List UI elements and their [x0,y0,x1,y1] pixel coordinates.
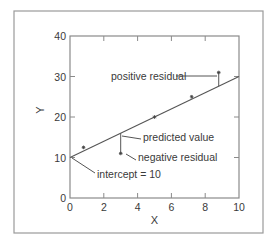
x-tick-label: 2 [101,201,107,213]
annotation-predicted-value: predicted value [143,131,214,143]
data-point-star-icon [217,71,221,75]
y-tick-label: 10 [54,152,66,164]
x-tick-label: 10 [233,201,245,213]
y-tick-label: 0 [60,192,66,204]
y-tick-label: 40 [54,30,66,42]
annotation-positive-residual: positive residual [111,70,186,82]
data-point-star-icon [153,115,157,119]
negative-residual-leader [126,154,136,160]
y-tick-label: 30 [54,71,66,83]
annotation-negative-residual: negative residual [138,151,217,163]
intercept-leader [72,158,95,173]
tick-labels: 0246810010203040 [54,30,245,213]
x-tick-label: 6 [168,201,174,213]
x-tick-label: 4 [135,201,141,213]
predicted-value-leader [122,136,141,139]
figure: 0246810010203040 X Y positive residual p… [0,0,271,247]
annotation-intercept: intercept = 10 [97,168,161,180]
x-tick-label: 8 [202,201,208,213]
data-point-star-icon [82,146,86,150]
y-tick-label: 20 [54,111,66,123]
data-point-star-icon [190,95,194,99]
x-axis-label: X [151,214,159,226]
outer-frame [14,11,263,233]
data-point-star-icon [119,152,123,156]
y-axis-label: Y [34,106,46,114]
regression-chart: 0246810010203040 X Y positive residual p… [0,0,271,247]
x-tick-label: 0 [67,201,73,213]
